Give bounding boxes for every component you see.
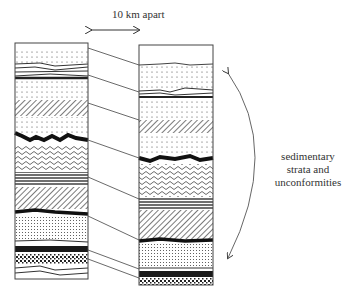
diagram-canvas xyxy=(0,0,353,293)
strata-correlation-diagram: 10 km apart sedimentary strata and uncon… xyxy=(0,0,353,293)
correlation-lines xyxy=(88,48,139,278)
left-column xyxy=(15,43,88,279)
curved-span-arrow-icon xyxy=(228,73,255,258)
right-column xyxy=(139,45,213,285)
